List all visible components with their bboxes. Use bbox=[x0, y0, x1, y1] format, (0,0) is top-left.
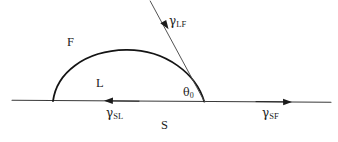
gamma-sl-subscript: SL bbox=[113, 111, 123, 121]
fluid-phase-label: F bbox=[67, 36, 74, 49]
gamma-sf-arrow bbox=[256, 99, 292, 105]
gamma-sl-label: γSL bbox=[106, 107, 124, 120]
gamma-sf-label: γSF bbox=[262, 107, 279, 120]
contact-angle-label: θ0 bbox=[183, 87, 194, 100]
droplet-interface-curve bbox=[53, 50, 204, 102]
contact-angle-diagram: F L S γLF γSL γSF θ0 bbox=[0, 0, 338, 142]
gamma-sl-arrow bbox=[104, 98, 139, 104]
gamma-lf-subscript: LF bbox=[176, 19, 186, 29]
theta-subscript: 0 bbox=[190, 91, 194, 100]
solid-phase-label: S bbox=[161, 119, 168, 132]
liquid-phase-label: L bbox=[96, 77, 104, 90]
gamma-lf-label: γLF bbox=[169, 15, 187, 28]
theta-symbol: θ bbox=[183, 86, 190, 99]
gamma-sf-subscript: SF bbox=[269, 111, 279, 121]
